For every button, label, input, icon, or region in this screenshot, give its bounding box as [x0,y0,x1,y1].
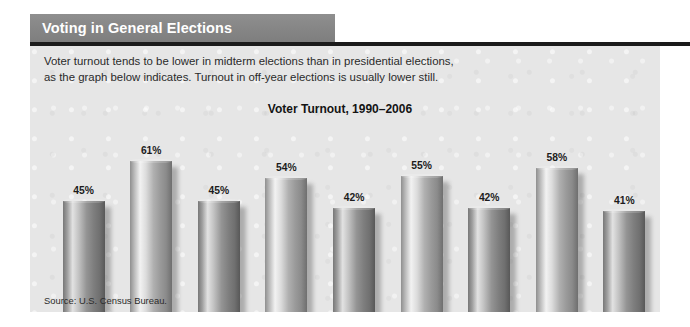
bar-2000 [390,176,454,313]
bar-1992 [119,161,183,313]
bar-body [536,168,578,312]
bar-body [468,208,510,312]
bar-cylinder-2002 [468,208,510,312]
bar-value-label-2002: 42% [457,192,521,203]
intro-line-1: Voter turnout tends to be lower in midte… [44,54,644,70]
bar-value-label-1990: 45% [52,185,116,196]
bar-1998 [322,208,386,312]
bar-body [603,211,645,313]
bar-cylinder-2000 [401,176,443,313]
content-panel: Voter turnout tends to be lower in midte… [30,46,660,312]
bar-value-label-1994: 45% [187,185,251,196]
bar-cap [468,206,510,210]
bar-2002 [457,208,521,312]
page-title: Voting in General Elections [42,20,232,36]
bar-cylinder-1998 [333,208,375,312]
source-note: Source: U.S. Census Bureau. [44,295,167,306]
infographic-root: Voting in General Elections Voter turnou… [0,0,690,327]
bar-cap [198,199,240,203]
bar-body [130,161,172,313]
bar-body [198,201,240,313]
bar-cap [333,206,375,210]
bar-cap [603,209,645,213]
header-bar: Voting in General Elections [30,14,335,42]
bar-value-label-1998: 42% [322,192,386,203]
bar-cap [536,166,578,170]
bar-2006 [592,211,656,313]
intro-text: Voter turnout tends to be lower in midte… [44,54,644,85]
bar-value-label-2000: 55% [390,160,454,171]
bar-cylinder-2006 [603,211,645,313]
bar-cap [63,199,105,203]
bar-cylinder-1992 [130,161,172,313]
intro-line-2: as the graph below indicates. Turnout in… [44,70,644,86]
bar-cylinder-1996 [265,178,307,312]
bar-body [401,176,443,313]
bar-cap [265,176,307,180]
bar-value-label-2006: 41% [592,195,656,206]
bar-value-label-1996: 54% [254,162,318,173]
bar-chart: 45%199061%199245%199454%199642%199855%20… [48,122,660,238]
bar-2004 [525,168,589,312]
bar-cylinder-2004 [536,168,578,312]
bar-value-label-1992: 61% [119,145,183,156]
bar-cap [130,159,172,163]
bar-1994 [187,201,251,313]
bar-cap [401,174,443,178]
bar-body [333,208,375,312]
bar-cylinder-1994 [198,201,240,313]
chart-title: Voter Turnout, 1990–2006 [30,102,650,116]
bar-body [265,178,307,312]
bar-1996 [254,178,318,312]
bar-value-label-2004: 58% [525,152,589,163]
